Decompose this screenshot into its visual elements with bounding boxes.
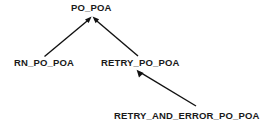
diagram-canvas: PO_POA RN_PO_POA RETRY_PO_POA RETRY_AND_… [0,0,266,128]
node-po-poa[interactable]: PO_POA [71,2,112,13]
edge-rn-po-poa-to-po-poa [45,17,92,57]
node-rn-po-poa[interactable]: RN_PO_POA [14,57,74,68]
edge-retry-and-error-to-retry-po-poa [137,70,196,106]
edge-retry-po-poa-to-po-poa [93,17,138,56]
node-retry-po-poa[interactable]: RETRY_PO_POA [101,57,180,68]
node-retry-and-error-po-poa[interactable]: RETRY_AND_ERROR_PO_POA [114,110,259,121]
